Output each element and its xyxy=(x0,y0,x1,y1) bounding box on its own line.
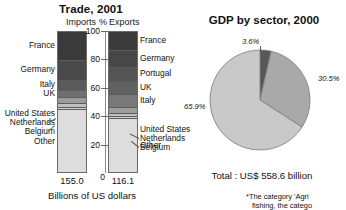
axis-tick-label-zero: 0 xyxy=(88,172,105,182)
imports-segment-label: UK xyxy=(43,89,55,97)
exports-segment-label: Italy xyxy=(140,95,155,103)
gdp-footnote: *The category 'Agri fishing, the catego xyxy=(246,192,346,210)
pie-slice-label: 65.9% xyxy=(184,103,206,111)
bar-segment xyxy=(109,81,137,94)
footnote-line-1: *The category 'Agri xyxy=(246,192,309,201)
trade-chart-title: Trade, 2001 xyxy=(0,3,182,15)
imports-segment-label: France xyxy=(29,41,55,49)
bar-segment xyxy=(58,109,86,173)
axis-tick-label: 80 xyxy=(91,55,100,64)
imports-stacked-bar xyxy=(57,31,87,173)
imports-segment-label: Other xyxy=(34,136,55,144)
axis-tick-label: 100 xyxy=(86,27,100,36)
bar-segment xyxy=(109,32,137,50)
pie-label-leader-line xyxy=(260,46,261,54)
exports-segment-label: UK xyxy=(140,83,152,91)
percent-axis: 10080604020 xyxy=(88,31,108,173)
gdp-pie xyxy=(208,48,312,152)
exports-segment-label: France xyxy=(140,36,166,44)
gdp-total-label: Total : US$ 558.6 billion xyxy=(182,170,342,181)
pie-slice-label: 3.6% xyxy=(242,38,259,46)
bar-segment xyxy=(109,50,137,66)
chart-figure: Trade, 2001 Imports % Exports 1008060402… xyxy=(0,0,346,210)
axis-tick xyxy=(101,59,108,60)
bar-segment xyxy=(58,32,86,60)
bar-segment xyxy=(109,118,137,173)
footnote-line-2: fishing, the catego xyxy=(246,201,346,210)
trade-axis-caption: Billions of US dollars xyxy=(8,190,176,201)
axis-tick-label: 60 xyxy=(91,84,100,93)
axis-tick xyxy=(101,116,108,117)
bar-segment xyxy=(109,67,137,81)
exports-stacked-bar xyxy=(108,31,138,173)
axis-tick xyxy=(101,145,108,146)
bar-segment xyxy=(58,90,86,97)
gdp-chart-title: GDP by sector, 2000 xyxy=(182,14,346,26)
pie-svg xyxy=(208,48,312,152)
exports-segment-label: Portugal xyxy=(140,69,171,77)
bar-segment xyxy=(109,94,137,106)
exports-column-header: Exports xyxy=(109,17,157,27)
axis-tick xyxy=(101,31,108,32)
axis-tick-label: 40 xyxy=(91,112,100,121)
bar-segment xyxy=(58,80,86,90)
pie-slice-label: 30.5% xyxy=(318,75,340,83)
imports-segment-label: Germany xyxy=(21,65,55,73)
gdp-chart-panel: GDP by sector, 2000 3.6%30.5%65.9% Total… xyxy=(182,0,346,210)
exports-segment-label: Germany xyxy=(140,53,174,61)
bar-segment xyxy=(58,60,86,81)
axis-line xyxy=(105,31,106,173)
axis-tick xyxy=(101,88,108,89)
axis-tick-label: 20 xyxy=(91,140,100,149)
trade-chart-panel: Trade, 2001 Imports % Exports 1008060402… xyxy=(0,0,182,210)
exports-segment-label: Other xyxy=(140,141,161,149)
